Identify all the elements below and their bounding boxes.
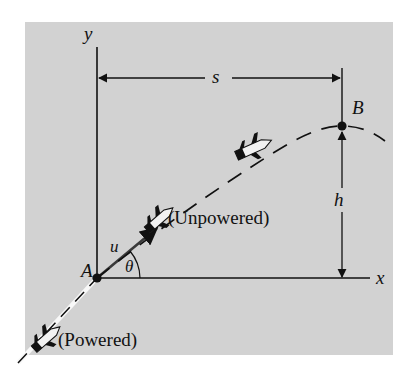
- rocket-unpowered-icon-2: [231, 128, 276, 166]
- dimension-label-h: h: [334, 190, 344, 209]
- angle-label-theta: θ: [125, 258, 133, 275]
- annotation-powered: (Powered): [58, 330, 137, 349]
- x-axis-label: x: [376, 268, 384, 287]
- dimension-label-s: s: [212, 67, 219, 86]
- projectile-motion-figure: y x A B s h u θ (Powered) (Unpowered): [0, 0, 415, 380]
- trajectory-powered-solid: [18, 278, 97, 363]
- point-a-label: A: [81, 261, 93, 280]
- point-b-label: B: [352, 98, 364, 117]
- velocity-label-u: u: [110, 238, 119, 255]
- point-a-marker: [92, 273, 101, 282]
- y-axis-label: y: [84, 24, 92, 43]
- figure-vector-layer: [0, 0, 415, 380]
- point-b-marker: [337, 121, 346, 130]
- annotation-unpowered: (Unpowered): [168, 208, 269, 227]
